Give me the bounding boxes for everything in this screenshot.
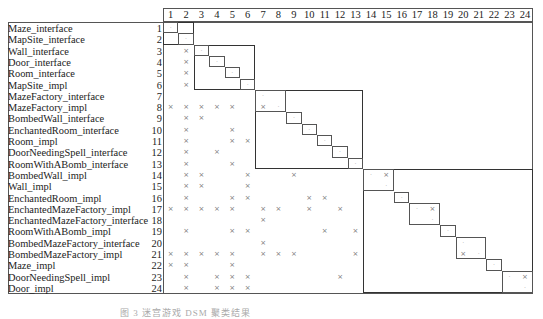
column-number: 14 — [363, 8, 378, 22]
dependency-mark: × — [348, 226, 363, 237]
dependency-mark: × — [209, 102, 224, 113]
dependency-mark: × — [379, 170, 394, 181]
dependency-mark: × — [240, 170, 255, 181]
dependency-mark: × — [332, 204, 347, 215]
row-number: 21 — [138, 249, 162, 260]
dependency-mark: × — [178, 80, 193, 91]
column-number: 24 — [517, 8, 532, 22]
dependency-mark: × — [255, 249, 270, 260]
column-number: 8 — [271, 8, 286, 22]
row-label: MazeFactory_interface — [8, 91, 104, 102]
diagonal-marker: · — [394, 193, 409, 204]
row-label: MapSite_interface — [8, 34, 85, 45]
dependency-mark: × — [225, 193, 240, 204]
dependency-mark: × — [178, 57, 193, 68]
row-number: 15 — [138, 181, 162, 192]
dependency-mark: × — [302, 204, 317, 215]
row-number: 18 — [138, 215, 162, 226]
row-label: Wall_interface — [8, 46, 69, 57]
column-number: 22 — [486, 8, 501, 22]
diagonal-marker: · — [178, 34, 193, 45]
dependency-mark: × — [225, 136, 240, 147]
dependency-mark: × — [225, 159, 240, 170]
row-number: 3 — [138, 46, 162, 57]
column-number: 10 — [302, 8, 317, 22]
diagonal-marker: · — [517, 283, 532, 294]
dependency-mark: × — [194, 204, 209, 215]
row-number: 19 — [138, 226, 162, 237]
diagonal-marker: · — [409, 204, 424, 215]
dependency-mark: × — [178, 136, 193, 147]
dependency-mark: × — [163, 102, 178, 113]
column-number: 11 — [317, 8, 332, 22]
diagonal-marker: · — [456, 238, 471, 249]
row-number: 13 — [138, 159, 162, 170]
diagonal-marker: · — [332, 147, 347, 158]
figure-caption: 图 3 迷宫游戏 DSM 聚类结果 — [120, 306, 251, 319]
diagonal-marker: · — [317, 136, 332, 147]
row-label: Maze_interface — [8, 23, 73, 34]
row-label: BombedWall_impl — [8, 170, 87, 181]
column-number: 4 — [209, 8, 224, 22]
dependency-mark: × — [194, 181, 209, 192]
dependency-mark: × — [317, 226, 332, 237]
column-number: 19 — [440, 8, 455, 22]
dependency-mark: × — [178, 68, 193, 79]
row-number: 7 — [138, 91, 162, 102]
row-number: 6 — [138, 80, 162, 91]
diagonal-marker: · — [486, 260, 501, 271]
column-number: 9 — [286, 8, 301, 22]
diagonal-marker: · — [225, 68, 240, 79]
row-label: MazeFactory_impl — [8, 102, 87, 113]
row-label: DoorNeedingSpell_impl — [8, 272, 110, 283]
column-number: 5 — [225, 8, 240, 22]
row-label: Door_impl — [8, 283, 54, 294]
dependency-mark: × — [163, 260, 178, 271]
dependency-mark: × — [178, 113, 193, 124]
diagonal-marker: · — [255, 91, 270, 102]
dependency-mark: × — [517, 272, 532, 283]
row-label: EnchantedRoom_impl — [8, 193, 102, 204]
column-number: 13 — [348, 8, 363, 22]
row-number: 5 — [138, 68, 162, 79]
row-number: 11 — [138, 136, 162, 147]
dependency-mark: × — [209, 204, 224, 215]
row-number: 17 — [138, 204, 162, 215]
dependency-mark: × — [194, 102, 209, 113]
row-label: BombedWall_interface — [8, 113, 104, 124]
dependency-mark: × — [255, 215, 270, 226]
dependency-mark: × — [255, 204, 270, 215]
dependency-mark: × — [240, 272, 255, 283]
dependency-mark: × — [209, 272, 224, 283]
row-label: EnchantedMazeFactory_interface — [8, 215, 148, 226]
row-label: Room_impl — [8, 136, 58, 147]
diagonal-marker: · — [348, 159, 363, 170]
dependency-mark: × — [178, 46, 193, 57]
dependency-mark: × — [178, 260, 193, 271]
column-number: 6 — [240, 8, 255, 22]
diagonal-marker: · — [194, 46, 209, 57]
diagonal-marker: · — [363, 170, 378, 181]
row-number: 24 — [138, 283, 162, 294]
diagonal-marker: · — [425, 215, 440, 226]
dependency-mark: × — [348, 249, 363, 260]
dependency-mark: × — [240, 136, 255, 147]
diagonal-marker: · — [379, 181, 394, 192]
row-label: Door_interface — [8, 57, 71, 68]
dependency-mark: × — [163, 249, 178, 260]
dependency-mark: × — [225, 260, 240, 271]
column-number: 12 — [332, 8, 347, 22]
dependency-mark: × — [240, 283, 255, 294]
diagonal-marker: · — [240, 80, 255, 91]
dependency-mark: × — [209, 283, 224, 294]
row-number: 8 — [138, 102, 162, 113]
dependency-mark: × — [225, 283, 240, 294]
row-number: 22 — [138, 260, 162, 271]
dependency-mark: × — [178, 272, 193, 283]
row-label: MapSite_impl — [8, 80, 67, 91]
dependency-mark: × — [240, 226, 255, 237]
column-number: 23 — [502, 8, 517, 22]
dependency-mark: × — [302, 193, 317, 204]
dependency-mark: × — [286, 170, 301, 181]
